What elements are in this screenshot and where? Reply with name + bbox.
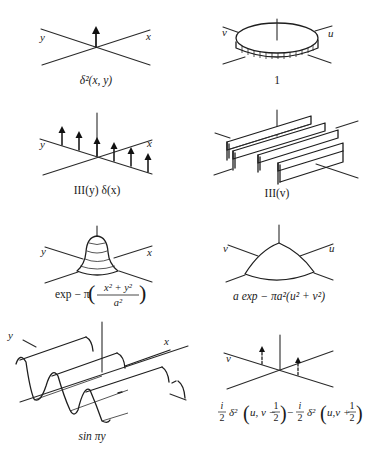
axis-y-front (119, 271, 152, 282)
impulse-arrowhead (92, 26, 100, 34)
coef2-num: i (299, 400, 302, 411)
caption-gaussian: exp − π ( x² + y² a² ) (55, 280, 146, 308)
paren1-left: ( (243, 402, 250, 425)
ridges (227, 116, 343, 184)
sine-tail-curve (178, 381, 185, 398)
minus-sign: − (287, 406, 293, 418)
caption-gaussian-transform: a exp − πa²(u² + v²) (233, 290, 325, 303)
coef2-den: 2 (298, 412, 303, 423)
axis-v-front (308, 55, 331, 63)
panel-sine-transform: v i 2 δ² ( u, v − 1 2 ) − i 2 δ² ( u,v +… (218, 335, 363, 425)
half2-den: 2 (350, 412, 355, 423)
axis-y (40, 139, 152, 174)
axis-x (20, 346, 188, 402)
axis-u-front (223, 57, 245, 64)
panel-shah-y-delta-x: y x III(y) δ(x) (39, 113, 152, 197)
axis-label-v: v (226, 352, 231, 364)
panel-gaussian: y x exp − π ( x² + y² a² ) (40, 226, 152, 308)
axis-label-u: u (329, 242, 335, 254)
axis-v-back (228, 245, 258, 256)
axis-label-v: v (222, 26, 227, 38)
half1-den: 2 (274, 412, 279, 423)
caption-shah-y-delta-x: III(y) δ(x) (74, 184, 121, 197)
panel-gaussian-transform: v u a exp − πa²(u² + v²) (223, 225, 335, 303)
caption-denominator: a² (114, 297, 123, 308)
axis-y-back (45, 247, 83, 259)
term1-fn: δ² (229, 406, 238, 418)
coef1-den: 2 (220, 412, 225, 423)
axis-y-tail (23, 340, 36, 347)
axis-front-right (316, 164, 358, 178)
axis-label-y: y (39, 138, 45, 150)
axis-label-x: x (146, 137, 152, 149)
caption-prefix: exp − π (55, 288, 90, 301)
term2-arg: u,v + (327, 406, 350, 418)
caption-sine-transform: i 2 δ² ( u, v − 1 2 ) − i 2 δ² ( u,v + 1… (218, 400, 363, 425)
axis-front-left (214, 169, 232, 175)
axis-label-x: x (163, 335, 169, 347)
sine-surface (16, 337, 185, 422)
paren-left: ( (88, 280, 95, 305)
paren1-right: ) (280, 402, 287, 425)
axis-back-right (336, 121, 358, 128)
axis-label-v: v (223, 242, 228, 254)
axis-label-y: y (40, 245, 46, 257)
axis-label-u: u (328, 27, 334, 39)
caption-sine: sin πy (78, 430, 106, 443)
term2-fn: δ² (307, 406, 316, 418)
caption-one: 1 (274, 74, 280, 86)
paren2-right: ) (356, 402, 363, 425)
gaussian-transform-surface (245, 243, 314, 280)
axis-label-x: x (145, 30, 151, 42)
paren-right: ) (139, 280, 146, 305)
caption-numerator: x² + y² (103, 282, 133, 293)
axis-u-front (226, 275, 245, 282)
panel-sine: y x sin πy (7, 322, 188, 443)
panel-one: v u 1 (222, 19, 334, 86)
axis-label-y: y (39, 31, 45, 43)
axis-label-x: x (146, 246, 152, 258)
paren2-left: ( (320, 402, 327, 425)
half1-num: 1 (274, 400, 279, 411)
fourier-pairs-figure: y x δ²(x, y) v u 1 (0, 0, 370, 455)
axis-v-front (314, 273, 333, 280)
axis-back-left (215, 133, 230, 138)
caption-delta2: δ²(x, y) (80, 74, 113, 87)
half2-num: 1 (350, 400, 355, 411)
panel-delta2: y x δ²(x, y) (39, 26, 151, 87)
axis-label-y: y (7, 329, 13, 341)
coef1-num: i (221, 400, 224, 411)
panel-shah-v: III(v) (214, 110, 358, 200)
axis-x-front (45, 272, 78, 283)
caption-shah-v: III(v) (265, 187, 290, 200)
axis-y-front (170, 394, 186, 400)
